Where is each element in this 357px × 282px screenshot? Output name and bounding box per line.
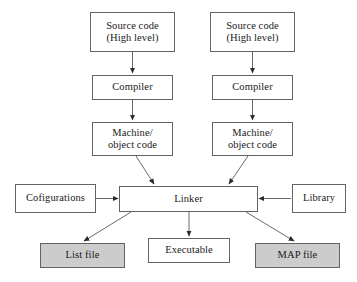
node-linker: Linker <box>119 186 258 212</box>
node-source-code-right-line2: (High level) <box>226 32 278 45</box>
node-compiler-right: Compiler <box>212 75 293 100</box>
node-source-code-right-line1: Source code <box>226 20 279 33</box>
node-machine-object-code-right-line1: Machine/ <box>232 127 272 140</box>
node-list-file: List file <box>40 243 125 268</box>
node-executable-label: Executable <box>165 244 213 257</box>
node-compiler-left: Compiler <box>92 75 173 100</box>
edge-objcode-left-to-linker <box>136 156 154 184</box>
node-executable: Executable <box>148 238 230 263</box>
node-machine-object-code-left-line1: Machine/ <box>112 127 152 140</box>
node-map-file: MAP file <box>255 243 340 268</box>
node-source-code-left: Source code (High level) <box>90 12 175 52</box>
node-source-code-right: Source code (High level) <box>210 12 295 52</box>
node-compiler-left-label: Compiler <box>112 81 152 94</box>
flowchart-diagram: Source code (High level) Source code (Hi… <box>0 0 357 282</box>
node-machine-object-code-left: Machine/ object code <box>92 122 173 156</box>
node-map-file-label: MAP file <box>278 249 318 262</box>
edge-linker-to-list-file <box>84 212 131 241</box>
node-machine-object-code-right-line2: object code <box>228 139 277 152</box>
node-library: Library <box>292 184 346 213</box>
node-machine-object-code-left-line2: object code <box>108 139 157 152</box>
node-configurations: Cofigurations <box>15 184 96 213</box>
node-library-label: Library <box>303 192 335 205</box>
edge-linker-to-map-file <box>246 212 294 241</box>
node-list-file-label: List file <box>66 249 100 262</box>
node-compiler-right-label: Compiler <box>232 81 272 94</box>
node-machine-object-code-right: Machine/ object code <box>212 122 293 156</box>
node-linker-label: Linker <box>174 193 203 206</box>
node-configurations-label: Cofigurations <box>26 192 85 205</box>
edge-objcode-right-to-linker <box>229 156 248 184</box>
node-source-code-left-line1: Source code <box>106 20 159 33</box>
node-source-code-left-line2: (High level) <box>106 32 158 45</box>
